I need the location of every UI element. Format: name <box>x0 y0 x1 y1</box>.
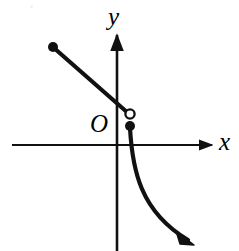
origin-label: O <box>90 111 108 136</box>
coordinate-plane <box>0 0 239 251</box>
filled-dot-segment-start <box>48 42 58 52</box>
open-circle-segment-end <box>125 109 134 118</box>
curve-arrowhead <box>176 231 194 245</box>
y-axis-label: y <box>108 4 119 29</box>
filled-dot-curve-start <box>125 121 135 131</box>
x-axis-label: x <box>219 129 230 154</box>
graph-figure: y x O <box>0 0 239 251</box>
